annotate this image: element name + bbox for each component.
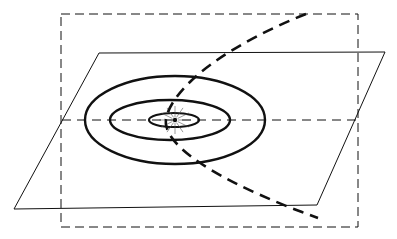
- diagram-canvas: [0, 0, 397, 239]
- central-star-icon: [159, 106, 191, 134]
- vertical-dashed-plane: [61, 14, 358, 227]
- horizontal-plane-parallelogram: [14, 52, 385, 209]
- orbital-diagram: [0, 0, 397, 239]
- parabolic-trajectory: [166, 14, 318, 218]
